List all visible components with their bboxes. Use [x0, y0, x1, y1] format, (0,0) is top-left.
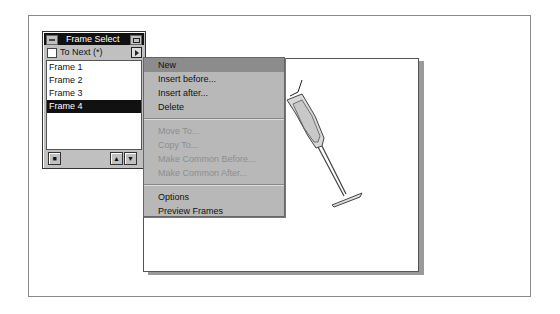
palette-title: Frame Select: [66, 33, 120, 45]
menu-separator: [144, 118, 284, 120]
frame-context-menu: New Insert before... Insert after... Del…: [143, 57, 285, 217]
menu-item-insert-after[interactable]: Insert after...: [144, 86, 284, 100]
menu-arrow-button[interactable]: [131, 47, 142, 58]
menu-item-copy-to: Copy To...: [144, 138, 284, 152]
arrow-down-icon: ▼: [127, 155, 134, 162]
frame-list-item[interactable]: Frame 2: [47, 74, 141, 87]
to-next-label: To Next (*): [60, 47, 103, 58]
menu-item-make-common-before: Make Common Before...: [144, 152, 284, 166]
arrow-up-icon: ▲: [113, 155, 120, 162]
frame-list-item[interactable]: Frame 3: [47, 87, 141, 100]
palette-titlebar[interactable]: Frame Select: [44, 33, 144, 45]
menu-item-insert-before[interactable]: Insert before...: [144, 72, 284, 86]
frame-select-palette: Frame Select To Next (*) Frame 1 Frame 2…: [42, 31, 146, 169]
menu-item-new[interactable]: New: [144, 58, 284, 72]
move-down-button[interactable]: ▼: [124, 152, 137, 165]
frame-list-item[interactable]: Frame 1: [47, 61, 141, 74]
maximize-icon[interactable]: [130, 35, 142, 45]
to-next-checkbox[interactable]: [47, 48, 57, 58]
menu-item-delete[interactable]: Delete: [144, 100, 284, 114]
system-menu-icon[interactable]: [46, 35, 58, 45]
frame-list[interactable]: Frame 1 Frame 2 Frame 3 Frame 4: [46, 60, 142, 150]
palette-toolbar: ■ ▲ ▼: [46, 150, 142, 165]
menu-item-preview-frames[interactable]: Preview Frames: [144, 204, 284, 218]
menu-item-options[interactable]: Options: [144, 190, 284, 204]
menu-separator: [144, 184, 284, 186]
menu-item-make-common-after: Make Common After...: [144, 166, 284, 180]
move-up-button[interactable]: ▲: [110, 152, 123, 165]
new-frame-button[interactable]: ■: [48, 152, 61, 165]
frame-list-item-selected[interactable]: Frame 4: [47, 100, 141, 113]
new-frame-icon: ■: [52, 155, 56, 162]
menu-item-move-to: Move To...: [144, 124, 284, 138]
to-next-row: To Next (*): [46, 47, 142, 58]
